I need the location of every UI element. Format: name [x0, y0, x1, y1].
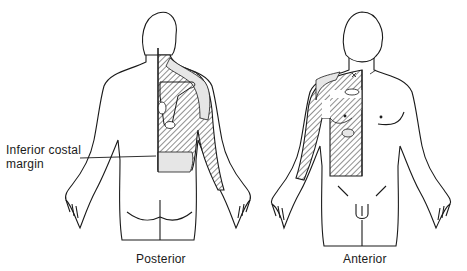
inferior-costal-margin-line1: Inferior costal	[6, 143, 86, 157]
posterior-caption: Posterior	[136, 252, 186, 266]
anterior-figure	[271, 12, 450, 246]
costal-margin-pointer	[80, 156, 156, 158]
posterior-figure	[65, 12, 250, 240]
inferior-costal-margin-line2: margin	[6, 157, 86, 171]
body-diagram	[0, 0, 467, 271]
inferior-costal-margin-label: Inferior costal margin	[6, 143, 86, 171]
anterior-caption: Anterior	[343, 252, 387, 266]
